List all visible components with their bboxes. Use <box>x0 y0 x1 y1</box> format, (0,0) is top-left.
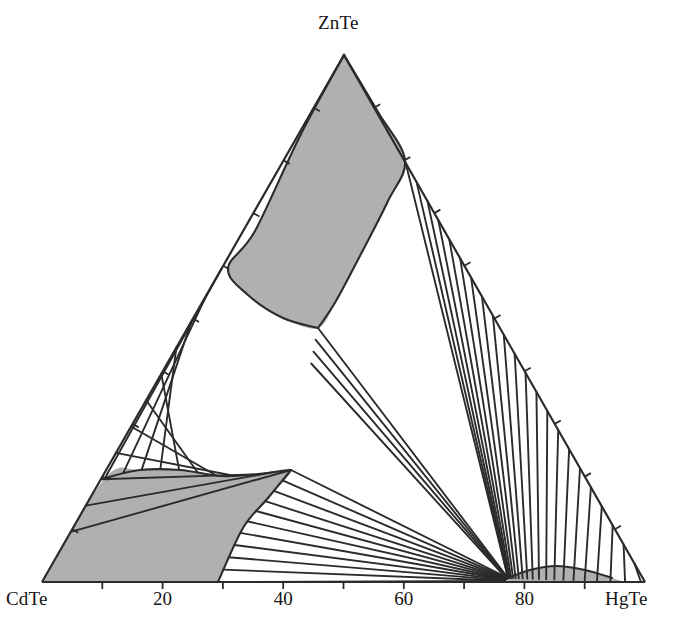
shaded-region-cdte <box>42 467 291 582</box>
tie-line-upper-right-fan <box>526 373 533 579</box>
tick-left-axis <box>253 213 259 216</box>
bottom-tick-label-40: 40 <box>274 588 293 610</box>
bottom-tick-label-60: 60 <box>394 588 413 610</box>
tie-line-upper-right-fan <box>546 411 547 579</box>
tie-line-upper-right-fan <box>554 430 558 579</box>
tie-line-left-fan <box>146 400 198 472</box>
tick-right-axis <box>585 473 591 476</box>
tie-line-upper-right-fan <box>574 468 580 580</box>
tie-line-upper-right-fan <box>536 392 539 579</box>
tie-line-lower-fan <box>282 480 507 578</box>
tick-right-axis <box>464 262 470 265</box>
shaded-region-znte <box>228 55 405 329</box>
tie-line-upper-right-fan <box>597 506 602 580</box>
tie-line-mid <box>314 352 508 579</box>
tie-line-upper-right-fan <box>624 544 625 581</box>
tie-line-lower-fan <box>256 511 506 579</box>
vertex-label-znte: ZnTe <box>318 12 359 34</box>
figure-canvas: CdTe HgTe ZnTe 20406080 <box>0 0 686 630</box>
vertex-label-hgte: HgTe <box>605 588 648 610</box>
bottom-tick-label-20: 20 <box>153 588 172 610</box>
tick-right-axis <box>495 315 501 318</box>
tick-right-axis <box>434 210 440 213</box>
tick-right-axis <box>525 368 531 371</box>
tick-right-axis <box>615 526 621 529</box>
tie-line-lower-fan <box>229 557 505 580</box>
tie-line-upper-right-fan <box>438 220 508 578</box>
tie-line-upper-right-fan <box>585 487 591 580</box>
tie-line-left-fan <box>131 427 216 476</box>
tie-line-upper-right-fan <box>427 201 508 578</box>
shaded-two-phase-regions <box>42 55 621 582</box>
vertex-label-cdte: CdTe <box>6 588 48 610</box>
bottom-tick-label-80: 80 <box>515 588 534 610</box>
tie-line-upper-right-fan <box>471 277 513 578</box>
tie-line-upper-right-fan <box>610 525 612 581</box>
ternary-diagram-svg <box>0 0 686 630</box>
tick-right-axis <box>555 420 561 423</box>
tie-line-upper-right-fan <box>563 449 569 580</box>
